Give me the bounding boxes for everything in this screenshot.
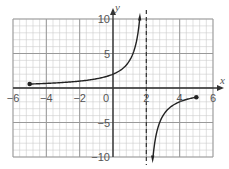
axes: [13, 8, 224, 157]
y-tick-label: 5: [104, 48, 110, 60]
right-endpoint-dot: [194, 95, 199, 100]
function-graph: −6−4−20246105−5−10xy: [0, 0, 229, 169]
x-tick-label: −4: [40, 92, 53, 104]
x-tick-label: 2: [143, 92, 149, 104]
x-tick-label: −2: [73, 92, 86, 104]
right-branch-arrow-icon: [151, 156, 154, 164]
left-endpoint-dot: [27, 82, 32, 87]
left-branch-arrow-icon: [138, 13, 141, 21]
x-axis-label: x: [219, 74, 225, 86]
y-tick-label: −5: [97, 117, 110, 129]
y-tick-label: −10: [91, 151, 110, 163]
x-tick-label: 6: [210, 92, 216, 104]
x-tick-label: 0: [103, 92, 109, 104]
y-tick-label: 10: [98, 13, 110, 25]
x-tick-label: 4: [177, 92, 183, 104]
y-axis-label: y: [114, 1, 120, 13]
x-tick-label: −6: [7, 92, 20, 104]
